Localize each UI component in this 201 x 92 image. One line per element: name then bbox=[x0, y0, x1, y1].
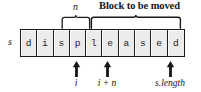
brace-block-icon bbox=[90, 15, 182, 29]
arrow-up-s-length-icon bbox=[166, 61, 175, 77]
cell-0: d bbox=[21, 30, 37, 56]
cell-4: l bbox=[86, 30, 102, 56]
cell-3: p bbox=[70, 30, 86, 56]
marker-label-i-plus-n: i + n bbox=[89, 79, 125, 89]
cell-7: s bbox=[135, 30, 151, 56]
cell-8: e bbox=[151, 30, 167, 56]
string-block-diagram: n Block to be moved s d i s p l e a s e … bbox=[0, 0, 201, 92]
brace-n-icon bbox=[61, 15, 91, 29]
brace-label-n: n bbox=[61, 2, 90, 12]
brace-label-block-to-be-moved: Block to be moved bbox=[90, 1, 189, 12]
marker-label-s-length: s.length bbox=[144, 79, 196, 89]
cell-2: s bbox=[54, 30, 70, 56]
marker-label-i: i bbox=[66, 79, 86, 89]
cell-5: e bbox=[102, 30, 118, 56]
cell-6: a bbox=[119, 30, 135, 56]
character-cell-row: d i s p l e a s e d bbox=[20, 29, 185, 57]
arrow-up-i-icon bbox=[72, 61, 81, 77]
cell-9: d bbox=[168, 30, 184, 56]
string-variable-label: s bbox=[8, 37, 12, 47]
arrow-up-i-plus-n-icon bbox=[103, 61, 112, 77]
cell-1: i bbox=[37, 30, 53, 56]
